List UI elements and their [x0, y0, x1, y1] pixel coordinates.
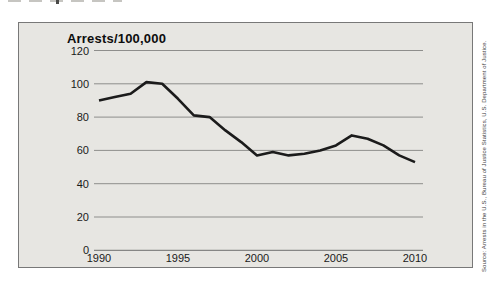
x-tick-label: 2000	[245, 252, 269, 264]
source-note-text: Source: Arrests in the U.S., Bureau of J…	[481, 41, 487, 272]
cropped-text-fragment	[8, 0, 122, 4]
y-tick-label: 20	[77, 211, 89, 223]
y-tick-label: 40	[77, 178, 89, 190]
y-tick-label: 100	[71, 78, 89, 90]
x-tick-label: 1990	[87, 252, 111, 264]
cropped-text-line	[8, 0, 122, 2]
line-chart: 02040608010012019901995200020052010	[19, 23, 472, 267]
x-tick-label: 2010	[403, 252, 427, 264]
page: Arrests/100,000 020406080100120199019952…	[0, 0, 499, 283]
y-tick-label: 60	[77, 144, 89, 156]
x-tick-label: 1995	[166, 252, 190, 264]
x-tick-label: 2005	[324, 252, 348, 264]
cropped-text-descender	[56, 0, 59, 4]
source-note: Source: Arrests in the U.S., Bureau of J…	[477, 22, 495, 268]
chart-panel: Arrests/100,000 020406080100120199019952…	[18, 22, 473, 268]
y-tick-label: 120	[71, 45, 89, 57]
y-tick-label: 80	[77, 111, 89, 123]
